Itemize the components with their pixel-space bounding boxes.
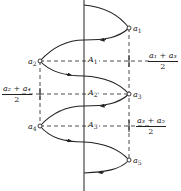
label-a4-sub: 4 xyxy=(33,125,37,132)
midpoint-label-35: a₃ + a₅ 2 xyxy=(136,117,166,136)
midpoint-label-13: a₁ + a₃ 2 xyxy=(148,52,178,71)
label-A2: A2' xyxy=(87,89,100,98)
label-a4: a4 xyxy=(28,123,37,132)
midpoint-24-denominator: 2 xyxy=(2,95,32,104)
arrow-a3-a4 xyxy=(102,106,106,107)
midpoint-24-numerator: a₂ + a₄ xyxy=(2,85,32,95)
label-A3-sub: 3 xyxy=(94,123,98,130)
midpoint-13-denominator: 2 xyxy=(148,62,178,71)
label-a5: a5 xyxy=(133,157,142,166)
label-A3: A3 xyxy=(87,121,99,130)
midpoint-35-numerator: a₃ + a₅ xyxy=(136,117,166,127)
point-a5 xyxy=(127,158,131,162)
label-a3: a3 xyxy=(133,91,142,100)
label-a1: a1 xyxy=(133,25,142,34)
curve-start-to-a1 xyxy=(84,5,129,28)
point-a1 xyxy=(127,26,131,30)
point-a3 xyxy=(127,92,131,96)
point-a4 xyxy=(38,124,42,128)
midpoint-35-denominator: 2 xyxy=(136,127,166,136)
midpoint-13-numerator: a₁ + a₃ xyxy=(148,52,178,62)
label-a5-sub: 5 xyxy=(138,159,142,166)
label-a1-sub: 1 xyxy=(138,27,142,34)
label-A2-sub: 2' xyxy=(94,91,99,98)
arrow-a5-end xyxy=(100,172,104,173)
label-a3-sub: 3 xyxy=(138,93,142,100)
label-A1-sub: 1 xyxy=(94,58,98,65)
label-A1: A1 xyxy=(87,56,99,65)
arrow-a1-a2 xyxy=(102,40,106,41)
point-a2 xyxy=(38,59,42,63)
curve-a5-to-end xyxy=(84,160,129,173)
label-a2: a2 xyxy=(28,58,37,67)
label-a2-sub: 2 xyxy=(33,60,37,67)
midpoint-label-24: a₂ + a₄ 2 xyxy=(2,85,32,104)
